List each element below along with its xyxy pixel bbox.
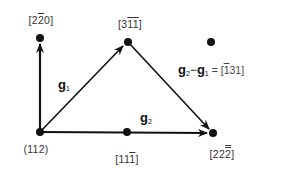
point-311 (124, 38, 132, 46)
label-111: [111] (115, 153, 138, 165)
label-220: [220] (29, 14, 54, 26)
point-111 (123, 128, 131, 136)
label-311: [311] (118, 18, 142, 30)
point-lone (207, 38, 215, 46)
label-222: [222] (210, 148, 235, 160)
point-222 (209, 129, 217, 137)
point-origin (36, 128, 44, 136)
label-origin: (112) (23, 143, 48, 155)
equation-g2-minus-g1: g2−g1 = [131] (178, 62, 244, 77)
point-220 (36, 34, 44, 42)
vector-label-g1: g1 (58, 77, 70, 92)
arrow-g1 (40, 46, 123, 132)
vector-label-g2: g2 (140, 110, 152, 125)
